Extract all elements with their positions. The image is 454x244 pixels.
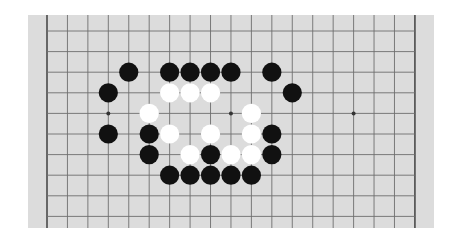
black-stone[interactable] [201,63,220,82]
black-stone[interactable] [262,145,281,164]
board-grid [28,15,434,228]
white-stone[interactable] [160,83,179,102]
white-stone[interactable] [221,145,240,164]
black-stone[interactable] [99,124,118,143]
white-stone[interactable] [201,83,220,102]
star-point [106,111,110,115]
black-stone[interactable] [262,124,281,143]
black-stone[interactable] [140,145,159,164]
black-stone[interactable] [283,83,302,102]
grid-lines [47,15,415,228]
white-stone[interactable] [140,104,159,123]
black-stone[interactable] [201,166,220,185]
white-stone[interactable] [201,124,220,143]
black-stone[interactable] [160,63,179,82]
black-stone[interactable] [140,124,159,143]
black-stone[interactable] [201,145,220,164]
star-point [229,111,233,115]
black-stone[interactable] [221,166,240,185]
black-stone[interactable] [160,166,179,185]
star-point [352,111,356,115]
black-stone[interactable] [180,166,199,185]
white-stone[interactable] [180,83,199,102]
white-stone[interactable] [242,124,261,143]
go-board[interactable] [28,15,434,228]
black-stone[interactable] [99,83,118,102]
white-stone[interactable] [180,145,199,164]
white-stone[interactable] [160,124,179,143]
black-stone[interactable] [242,166,261,185]
black-stone[interactable] [221,63,240,82]
black-stone[interactable] [119,63,138,82]
black-stone[interactable] [180,63,199,82]
white-stone[interactable] [242,104,261,123]
black-stone[interactable] [262,63,281,82]
white-stone[interactable] [242,145,261,164]
